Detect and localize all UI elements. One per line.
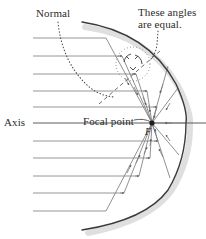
normal-label: Normal [36,7,70,19]
angle-highlight-circle [116,47,150,81]
mirror-shadow [85,27,190,233]
angle-equality-ticks [126,56,138,70]
focal-point-leader [134,119,151,122]
parabolic-mirror-figure: Normal These angles are equal. Axis Foca… [0,0,206,239]
angle-arc-reflected [135,55,142,64]
reflected-ray [152,88,178,123]
focal-point-dot [149,120,154,125]
focus-symbol-label: F [145,126,151,137]
these-angles-are-equal-label: These angles are equal. [138,6,196,31]
reflected-ray [152,66,168,123]
equal-angle-arcs [124,54,142,64]
these-angles-line-1: These angles [138,6,196,18]
reflected-ray [152,123,170,178]
these-angles-line-2: are equal. [138,18,196,30]
axis-label: Axis [4,116,25,128]
reflected-ray [152,123,179,155]
reflected-ray [122,56,152,123]
focal-point-label: Focal point [83,115,134,127]
